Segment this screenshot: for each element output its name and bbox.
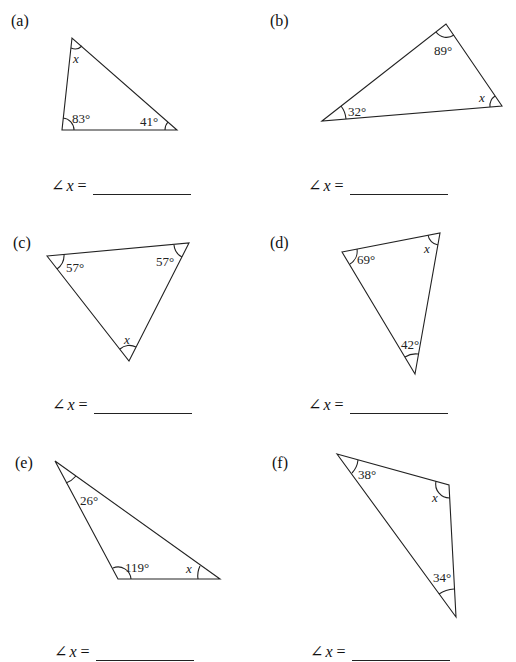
- equals-sign: =: [337, 643, 346, 661]
- answer-variable: x: [325, 643, 332, 661]
- angle-label: 38°: [358, 467, 376, 482]
- answer-field: ∠x =: [310, 642, 450, 661]
- angle-label-x: x: [431, 490, 438, 505]
- angle-symbol: ∠: [310, 642, 323, 661]
- angle-label: 34°: [433, 570, 451, 585]
- answer-blank[interactable]: [352, 646, 450, 661]
